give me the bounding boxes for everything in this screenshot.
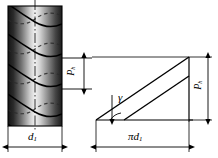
- label-pi-d1: πd1: [128, 131, 142, 143]
- label-helix-angle: γ: [118, 92, 122, 103]
- label-ph-left: Ph: [66, 61, 76, 81]
- label-ph-right: Ph: [193, 75, 203, 95]
- cylinder-group: [8, 0, 62, 147]
- helix-development-line-2: [124, 76, 189, 120]
- diagram-canvas: d1 πd1 Ph Ph γ: [0, 0, 218, 158]
- dimension-pid1-group: [96, 120, 189, 152]
- helix-development-line-1: [96, 57, 189, 120]
- label-d1: d1: [28, 131, 37, 143]
